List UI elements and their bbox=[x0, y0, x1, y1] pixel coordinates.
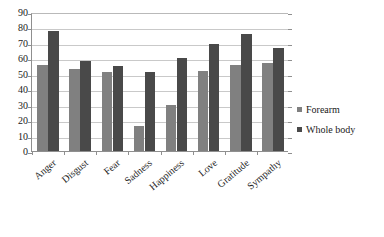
bar-group bbox=[128, 14, 160, 151]
bar-group bbox=[161, 14, 193, 151]
bar-forearm bbox=[166, 105, 177, 151]
y-tick-label: 40 bbox=[4, 85, 28, 95]
bar-chart: 9080706050403020100 AngerDisgustFearSadn… bbox=[0, 0, 384, 237]
x-tick-label: Disgust bbox=[60, 157, 90, 185]
bar-forearm bbox=[69, 69, 80, 151]
y-tick-label: 50 bbox=[4, 70, 28, 80]
y-tick-label: 0 bbox=[4, 147, 28, 157]
bar-group bbox=[257, 14, 289, 151]
bar-whole-body bbox=[145, 72, 156, 151]
bar-whole-body bbox=[241, 34, 252, 151]
bar-group bbox=[225, 14, 257, 151]
bar-group bbox=[32, 14, 64, 151]
x-tick-label: Fear bbox=[102, 157, 123, 177]
plot-area bbox=[31, 13, 288, 152]
y-tick-label: 20 bbox=[4, 116, 28, 126]
bar-forearm bbox=[37, 65, 48, 151]
legend-swatch-icon bbox=[297, 127, 302, 132]
bar-whole-body bbox=[209, 44, 220, 151]
bar-whole-body bbox=[177, 58, 188, 151]
bar-group bbox=[193, 14, 225, 151]
bar-whole-body bbox=[80, 61, 91, 151]
bar-forearm bbox=[134, 126, 145, 151]
bar-whole-body bbox=[273, 48, 284, 151]
y-tick-label: 10 bbox=[4, 132, 28, 142]
bar-forearm bbox=[102, 72, 113, 151]
legend-label: Whole body bbox=[306, 124, 355, 135]
y-tick-label: 90 bbox=[4, 8, 28, 18]
y-tick-label: 30 bbox=[4, 101, 28, 111]
x-axis: AngerDisgustFearSadnessHappinessLoveGrat… bbox=[31, 153, 288, 237]
legend: ForearmWhole body bbox=[297, 104, 383, 144]
legend-item: Whole body bbox=[297, 124, 383, 135]
legend-swatch-icon bbox=[297, 107, 302, 112]
x-tick-label: Love bbox=[196, 157, 219, 179]
bar-forearm bbox=[230, 65, 241, 151]
bar-group bbox=[64, 14, 96, 151]
y-axis: 9080706050403020100 bbox=[0, 0, 28, 237]
bar-forearm bbox=[262, 63, 273, 151]
bar-forearm bbox=[198, 71, 209, 151]
bar-whole-body bbox=[113, 66, 124, 151]
bar-group bbox=[96, 14, 128, 151]
x-tick-label: Sympathy bbox=[245, 157, 283, 191]
x-tick-label: Anger bbox=[32, 157, 58, 181]
y-tick-label: 80 bbox=[4, 23, 28, 33]
y-tick-label: 70 bbox=[4, 39, 28, 49]
bar-whole-body bbox=[48, 31, 59, 151]
x-tick-label: Gratitude bbox=[215, 157, 251, 190]
x-tick-label: Happiness bbox=[147, 157, 186, 192]
y-tick-label: 60 bbox=[4, 54, 28, 64]
legend-label: Forearm bbox=[306, 104, 340, 115]
legend-item: Forearm bbox=[297, 104, 383, 115]
y-tick-mark bbox=[288, 153, 292, 154]
